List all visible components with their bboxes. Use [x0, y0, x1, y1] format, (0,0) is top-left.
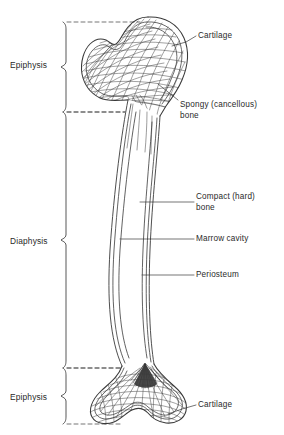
bracket-epiphysis-top: [61, 22, 66, 112]
callout-label-line: Marrow cavity: [196, 234, 248, 245]
spongy-bone-trabeculae-proximal: [81, 19, 186, 126]
bracket-label-epiphysis-bottom: Epiphysis: [10, 392, 47, 403]
callout-label-line: bone: [196, 203, 255, 214]
bracket-diaphysis: [61, 112, 66, 368]
callout-label-line: Cartilage: [198, 400, 232, 411]
callout-label-periosteum: Periosteum: [196, 270, 239, 281]
callout-label-line: Cartilage: [198, 31, 232, 42]
bracket-label-diaphysis: Diaphysis: [10, 236, 48, 247]
callout-label-compact-bone: Compact (hard)bone: [196, 192, 255, 213]
callout-label-cartilage-top: Cartilage: [198, 31, 232, 42]
bracket-epiphysis-bottom: [61, 368, 66, 424]
bracket-label-epiphysis-top: Epiphysis: [10, 60, 47, 71]
callout-label-cartilage-bottom: Cartilage: [198, 400, 232, 411]
region-brackets-layer: [61, 22, 140, 424]
trabecular-dense-node-proximal: [128, 95, 149, 117]
callout-label-spongy-bone: Spongy (cancellous)bone: [180, 100, 257, 121]
bone-anatomy-diagram: EpiphysisDiaphysisEpiphysis CartilageSpo…: [0, 0, 284, 435]
periosteum-line: [109, 100, 160, 366]
callout-label-marrow-cavity: Marrow cavity: [196, 234, 248, 245]
callout-label-line: Compact (hard): [196, 192, 255, 203]
callout-label-line: Periosteum: [196, 270, 239, 281]
callout-label-line: Spongy (cancellous): [180, 100, 257, 111]
callout-leaders-layer: [120, 36, 196, 414]
callout-label-line: bone: [180, 111, 257, 122]
bracket-dash-epiphysis-top: [67, 22, 140, 112]
